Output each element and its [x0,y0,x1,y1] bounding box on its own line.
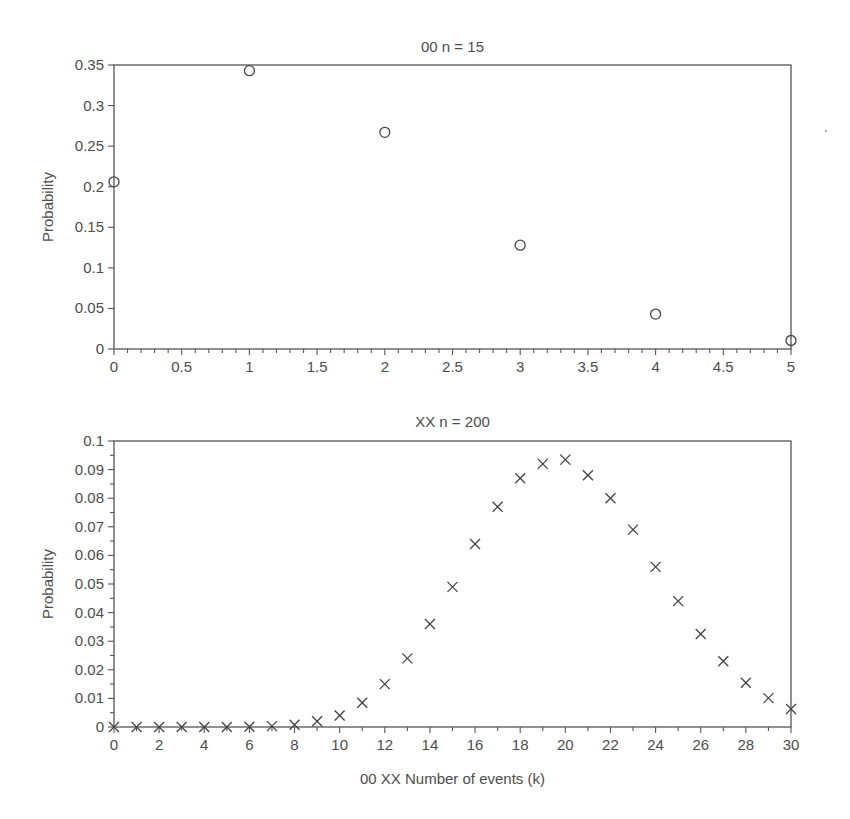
x-tick-label: 4.5 [713,358,734,375]
data-point [515,473,525,483]
data-point [493,502,503,512]
x-tick-label: 0.5 [171,358,192,375]
x-tick-label: 22 [602,736,619,753]
y-tick-label: 0.15 [75,218,104,235]
x-tick-label: 4 [200,736,208,753]
plot-frame [114,65,791,349]
data-point [560,455,570,465]
y-tick-label: 0.25 [75,137,104,154]
data-point [628,525,638,535]
data-point [448,582,458,592]
data-point [718,656,728,666]
chart-canvas: 00.511.522.533.544.5500.050.10.150.20.25… [0,0,850,819]
y-tick-label: 0.07 [75,518,104,535]
x-tick-label: 10 [331,736,348,753]
data-point [380,127,390,137]
y-tick-label: 0.01 [75,689,104,706]
x-tick-label: 3.5 [577,358,598,375]
data-point [470,539,480,549]
x-tick-label: 12 [376,736,393,753]
bottom-plot: 02468101214161820222426283000.010.020.03… [75,432,800,753]
data-point [380,679,390,689]
x-tick-label: 16 [467,736,484,753]
top-plot: 00.511.522.533.544.5500.050.10.150.20.25… [75,56,796,375]
data-point [651,562,661,572]
data-point [357,698,367,708]
x-tick-label: 3 [516,358,524,375]
data-point [402,653,412,663]
data-point [425,619,435,629]
y-tick-label: 0.08 [75,489,104,506]
x-tick-label: 30 [783,736,800,753]
x-tick-label: 20 [557,736,574,753]
x-tick-label: 24 [647,736,664,753]
x-tick-label: 18 [512,736,529,753]
y-tick-label: 0.2 [83,178,104,195]
x-tick-label: 1.5 [307,358,328,375]
x-tick-label: 0 [110,358,118,375]
data-point [605,493,615,503]
speck [825,130,827,132]
data-point [244,66,254,76]
y-tick-label: 0.3 [83,97,104,114]
x-tick-label: 14 [422,736,439,753]
y-tick-label: 0.35 [75,56,104,73]
x-tick-label: 4 [651,358,659,375]
y-tick-label: 0.09 [75,461,104,478]
x-tick-label: 2 [381,358,389,375]
x-tick-label: 2.5 [442,358,463,375]
y-tick-label: 0 [96,340,104,357]
data-point [538,459,548,469]
y-tick-label: 0.05 [75,299,104,316]
x-tick-label: 6 [245,736,253,753]
x-tick-label: 26 [692,736,709,753]
y-tick-label: 0 [96,718,104,735]
y-tick-label: 0.03 [75,632,104,649]
plot-frame [114,441,791,727]
x-tick-label: 5 [787,358,795,375]
y-tick-label: 0.05 [75,575,104,592]
y-tick-label: 0.02 [75,661,104,678]
x-tick-label: 28 [738,736,755,753]
data-point [335,711,345,721]
x-tick-label: 1 [245,358,253,375]
y-tick-label: 0.06 [75,546,104,563]
x-tick-label: 2 [155,736,163,753]
data-point [696,629,706,639]
data-point [763,693,773,703]
data-point [651,309,661,319]
data-point [741,678,751,688]
data-point [583,470,593,480]
x-tick-label: 8 [290,736,298,753]
x-tick-label: 0 [110,736,118,753]
data-point [673,596,683,606]
y-tick-label: 0.04 [75,604,104,621]
y-tick-label: 0.1 [83,432,104,449]
y-tick-label: 0.1 [83,259,104,276]
data-point [515,240,525,250]
data-point [312,716,322,726]
